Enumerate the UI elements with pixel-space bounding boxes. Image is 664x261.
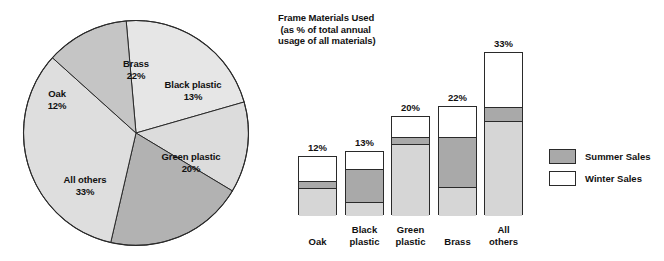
bar-segment-summer-sales-black-plastic: [346, 169, 383, 203]
bar-group-brass: 22%Brass: [438, 72, 477, 215]
frame-materials-figure: Brass 22% Black plastic 13% Green plasti…: [0, 0, 664, 261]
bar-segment-summer-sales-oak: [299, 181, 336, 188]
pie-label-black-plastic: Black plastic 13%: [156, 79, 230, 102]
pie-label-brass: Brass 22%: [106, 58, 166, 81]
legend-label-winter-sales: Winter Sales: [585, 173, 642, 184]
pie-slice-name-green-plastic: Green plastic: [152, 151, 230, 163]
pie-label-oak: Oak 12%: [32, 88, 82, 111]
legend-item-winter-sales: Winter Sales: [549, 171, 661, 186]
pie-slice-name-all-others: All others: [48, 174, 122, 186]
bar-value-all-others: 33%: [484, 38, 523, 49]
bar-segment-summer-sales-green-plastic: [392, 137, 429, 145]
bar-segment-base-green-plastic: [392, 145, 429, 216]
pie-chart: Brass 22% Black plastic 13% Green plasti…: [0, 0, 272, 261]
bar-group-green-plastic: 20%Green plastic: [391, 82, 430, 215]
bar-segment-summer-sales-brass: [439, 137, 476, 188]
chart-legend: Summer Sales Winter Sales: [549, 149, 661, 193]
legend-item-summer-sales: Summer Sales: [549, 149, 661, 164]
bar-group-all-others: 33%All others: [484, 18, 523, 215]
bar-value-brass: 22%: [438, 92, 477, 103]
bar-segment-winter-sales-oak: [299, 157, 336, 182]
bar-group-black-plastic: 13%Black plastic: [345, 117, 384, 215]
legend-swatch-summer-sales: [549, 149, 576, 164]
bar-segment-winter-sales-brass: [439, 107, 476, 137]
bar-green-plastic[interactable]: [391, 116, 430, 215]
pie-label-green-plastic: Green plastic 20%: [152, 151, 230, 174]
legend-swatch-winter-sales: [549, 171, 576, 186]
bar-all-others[interactable]: [484, 52, 523, 215]
pie-slice-value-oak: 12%: [32, 100, 82, 112]
bar-chart: Frame Materials Used (as % of total annu…: [272, 0, 664, 261]
pie-slice-value-black-plastic: 13%: [156, 91, 230, 103]
bar-segment-winter-sales-green-plastic: [392, 117, 429, 137]
bar-segment-base-black-plastic: [346, 203, 383, 216]
bar-value-green-plastic: 20%: [391, 102, 430, 113]
pie-label-all-others: All others 33%: [48, 174, 122, 197]
legend-label-summer-sales: Summer Sales: [585, 151, 650, 162]
bar-chart-title: Frame Materials Used (as % of total annu…: [278, 12, 376, 47]
pie-slice-group: [23, 21, 248, 246]
bar-segment-winter-sales-all-others: [485, 53, 522, 107]
pie-slice-value-green-plastic: 20%: [152, 163, 230, 175]
pie-slice-name-oak: Oak: [32, 88, 82, 100]
bar-segment-summer-sales-all-others: [485, 107, 522, 122]
bar-value-oak: 12%: [298, 142, 337, 153]
pie-slice-name-black-plastic: Black plastic: [156, 79, 230, 91]
bar-oak[interactable]: [298, 156, 337, 215]
bar-category-label-all-others: All others: [476, 224, 531, 247]
bar-segment-base-oak: [299, 189, 336, 216]
pie-slice-value-all-others: 33%: [48, 186, 122, 198]
bar-value-black-plastic: 13%: [345, 137, 384, 148]
bar-segment-base-brass: [439, 188, 476, 216]
bar-segment-base-all-others: [485, 122, 522, 216]
pie-slice-name-brass: Brass: [106, 58, 166, 70]
bar-segment-winter-sales-black-plastic: [346, 152, 383, 169]
bar-group-oak: 12%Oak: [298, 122, 337, 215]
pie-chart-svg: [0, 0, 272, 261]
bar-brass[interactable]: [438, 106, 477, 215]
bar-black-plastic[interactable]: [345, 151, 384, 215]
